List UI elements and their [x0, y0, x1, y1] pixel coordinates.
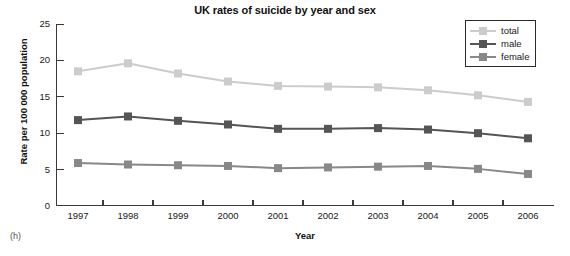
data-point-male-2006	[524, 134, 532, 142]
data-point-female-1997	[74, 159, 82, 167]
data-point-female-2006	[524, 170, 532, 178]
x-tick-label: 2004	[408, 210, 448, 221]
x-tick-label: 2006	[508, 210, 548, 221]
data-point-male-2004	[424, 126, 432, 134]
x-tick-label: 1998	[108, 210, 148, 221]
legend-label: total	[501, 25, 519, 36]
data-point-male-1999	[174, 117, 182, 125]
data-point-total-2006	[524, 98, 532, 106]
data-point-male-1997	[74, 116, 82, 124]
data-point-total-2002	[324, 83, 332, 91]
data-point-total-1997	[74, 67, 82, 75]
data-point-total-2001	[274, 82, 282, 90]
data-point-total-2005	[474, 91, 482, 99]
data-point-male-1998	[124, 112, 132, 120]
figure-caption: (h)	[10, 231, 21, 241]
legend-label: female	[501, 51, 530, 62]
legend-item-male[interactable]: male	[470, 37, 530, 50]
data-point-female-1999	[174, 161, 182, 169]
data-point-total-2000	[224, 78, 232, 86]
y-tick-label: 5	[30, 165, 50, 175]
data-point-male-2000	[224, 120, 232, 128]
x-axis-label: Year	[56, 230, 554, 241]
data-point-male-2005	[474, 129, 482, 137]
legend-swatch-icon	[470, 51, 496, 62]
data-point-female-2003	[374, 163, 382, 171]
y-tick-label: 20	[30, 55, 50, 65]
series-line-total	[78, 63, 528, 102]
chart-legend: totalmalefemale	[465, 20, 536, 67]
data-point-total-1999	[174, 70, 182, 78]
x-tick-label: 2005	[458, 210, 498, 221]
data-point-total-2003	[374, 83, 382, 91]
data-point-male-2003	[374, 124, 382, 132]
x-tick-label: 2000	[208, 210, 248, 221]
x-tick-label: 2002	[308, 210, 348, 221]
chart-title: UK rates of suicide by year and sex	[0, 4, 570, 16]
y-tick-label: 25	[30, 19, 50, 29]
data-point-male-2001	[274, 125, 282, 133]
data-point-female-2004	[424, 162, 432, 170]
legend-label: male	[501, 38, 522, 49]
y-tick-label: 10	[30, 128, 50, 138]
legend-swatch-icon	[470, 25, 496, 36]
legend-swatch-icon	[470, 38, 496, 49]
data-point-female-2001	[274, 164, 282, 172]
y-tick-label: 0	[30, 201, 50, 211]
data-point-female-2005	[474, 165, 482, 173]
x-tick-label: 2001	[258, 210, 298, 221]
x-axis-tick-labels: 1997199819992000200120022003200420052006	[56, 210, 554, 224]
figure-container: UK rates of suicide by year and sex Rate…	[0, 0, 570, 256]
y-tick-label: 15	[30, 92, 50, 102]
data-point-female-2000	[224, 162, 232, 170]
data-point-female-2002	[324, 163, 332, 171]
series-group	[74, 59, 532, 178]
y-axis-tick-labels: 0510152025	[24, 24, 50, 206]
x-tick-label: 1999	[158, 210, 198, 221]
data-point-total-2004	[424, 86, 432, 94]
legend-item-female[interactable]: female	[470, 50, 530, 63]
x-tick-label: 2003	[358, 210, 398, 221]
data-point-female-1998	[124, 161, 132, 169]
data-point-total-1998	[124, 59, 132, 67]
series-line-female	[78, 163, 528, 174]
x-tick-label: 1997	[58, 210, 98, 221]
data-point-male-2002	[324, 125, 332, 133]
series-line-male	[78, 116, 528, 138]
legend-item-total[interactable]: total	[470, 24, 530, 37]
